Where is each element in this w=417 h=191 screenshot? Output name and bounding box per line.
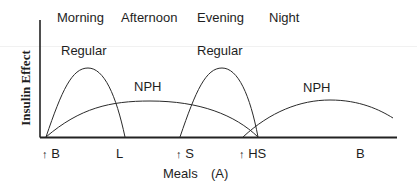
meal-lunch: L (116, 146, 123, 161)
meal-bedtime: ↑ HS (239, 146, 266, 162)
injection-arrow-icon: ↑ (239, 148, 245, 160)
period-morning: Morning (57, 10, 104, 25)
injection-arrow-icon: ↑ (42, 148, 48, 160)
period-evening: Evening (197, 10, 244, 25)
regular-curve-morning (46, 68, 125, 137)
period-night: Night (269, 10, 299, 25)
nph-curve-evening (243, 100, 393, 137)
meal-breakfast-next: B (356, 146, 365, 161)
x-axis-label: Meals (163, 166, 198, 181)
nph-label-morning: NPH (134, 79, 161, 94)
nph-label-evening: NPH (303, 80, 330, 95)
meal-breakfast: ↑ B (42, 146, 60, 162)
period-afternoon: Afternoon (121, 10, 177, 25)
injection-arrow-icon: ↑ (176, 148, 182, 160)
nph-curve-morning (46, 101, 258, 137)
regular-label-morning: Regular (61, 43, 107, 58)
insulin-chart (0, 0, 417, 191)
regular-label-evening: Regular (197, 43, 243, 58)
meal-supper: ↑ S (176, 146, 194, 162)
panel-label: (A) (211, 166, 228, 181)
y-axis-label: Insulin Effect (18, 38, 34, 138)
